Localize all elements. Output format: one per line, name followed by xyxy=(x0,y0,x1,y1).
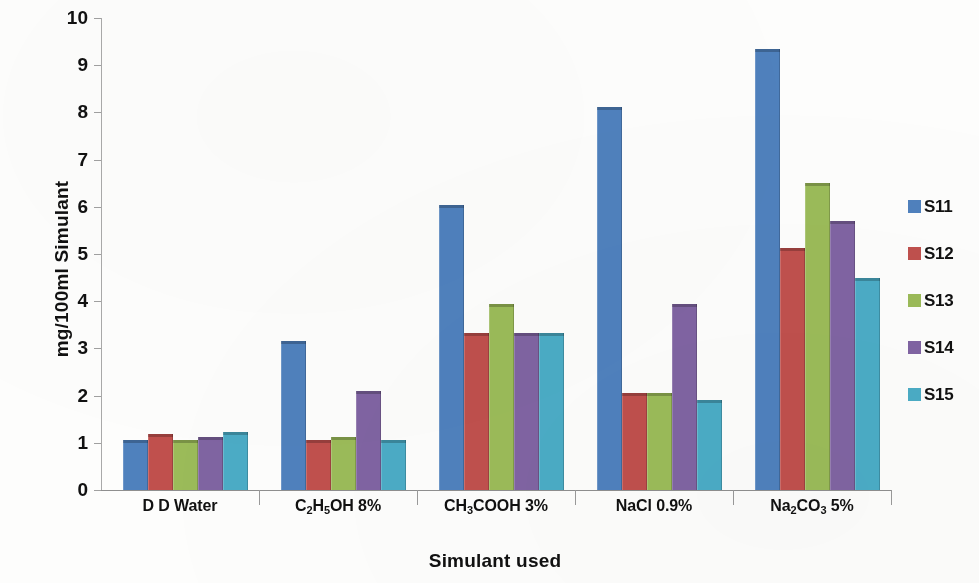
bar-top-edge xyxy=(755,49,780,52)
legend-label: S13 xyxy=(924,291,953,311)
bar-s12-2[interactable] xyxy=(306,440,331,491)
legend-swatch-icon xyxy=(908,247,921,260)
y-axis-tick-label: 6 xyxy=(77,196,88,218)
bar-top-edge xyxy=(123,440,148,443)
bar-s15-4[interactable] xyxy=(697,400,722,490)
bar-top-edge xyxy=(805,183,830,186)
x-axis-tick-label: NaCl 0.9% xyxy=(575,497,733,515)
legend-label: S12 xyxy=(924,244,953,264)
bar-s13-5[interactable] xyxy=(805,183,830,490)
y-axis-tick-label: 8 xyxy=(77,101,88,123)
bar-top-edge xyxy=(647,393,672,396)
y-axis-tick xyxy=(94,160,101,161)
bar-top-edge xyxy=(173,440,198,443)
bar-top-edge xyxy=(198,437,223,440)
bar-top-edge xyxy=(780,248,805,251)
legend-item-s15[interactable]: S15 xyxy=(908,384,978,405)
legend-item-s11[interactable]: S11 xyxy=(908,196,978,217)
bar-s11-4[interactable] xyxy=(597,107,622,490)
bar-s14-5[interactable] xyxy=(830,221,855,490)
legend-swatch-icon xyxy=(908,200,921,213)
bar-top-edge xyxy=(697,400,722,403)
bar-top-edge xyxy=(439,205,464,208)
category-separator-tick xyxy=(891,490,892,505)
y-axis-tick xyxy=(94,301,101,302)
bar-top-edge xyxy=(306,440,331,443)
bar-s13-2[interactable] xyxy=(331,437,356,490)
y-axis-tick xyxy=(94,112,101,113)
bar-top-edge xyxy=(514,333,539,336)
plot-area: 109876543210 xyxy=(101,18,891,490)
y-axis-tick-label: 2 xyxy=(77,385,88,407)
bar-top-edge xyxy=(539,333,564,336)
y-axis-tick-label: 9 xyxy=(77,54,88,76)
bar-top-edge xyxy=(281,341,306,344)
legend-item-s13[interactable]: S13 xyxy=(908,290,978,311)
bar-s11-1[interactable] xyxy=(123,440,148,491)
bar-s12-4[interactable] xyxy=(622,393,647,490)
bar-top-edge xyxy=(464,333,489,336)
x-axis-tick-label: Na2CO3 5% xyxy=(733,497,891,515)
bar-s12-5[interactable] xyxy=(780,248,805,490)
bar-s14-4[interactable] xyxy=(672,304,697,490)
bar-s13-1[interactable] xyxy=(173,440,198,491)
y-axis-tick-label: 3 xyxy=(77,337,88,359)
bar-top-edge xyxy=(223,432,248,435)
y-axis-tick-label: 1 xyxy=(77,432,88,454)
y-axis-tick-label: 7 xyxy=(77,149,88,171)
bar-top-edge xyxy=(672,304,697,307)
x-axis-title: Simulant used xyxy=(95,550,895,572)
legend-swatch-icon xyxy=(908,388,921,401)
y-axis-tick xyxy=(94,65,101,66)
bar-s15-3[interactable] xyxy=(539,333,564,490)
legend-swatch-icon xyxy=(908,341,921,354)
bar-s12-1[interactable] xyxy=(148,434,173,490)
y-axis-tick xyxy=(94,254,101,255)
legend-item-s12[interactable]: S12 xyxy=(908,243,978,264)
bar-top-edge xyxy=(356,391,381,394)
bar-top-edge xyxy=(855,278,880,281)
bar-group xyxy=(417,18,575,490)
y-axis-tick xyxy=(94,443,101,444)
y-axis-tick-label: 0 xyxy=(77,479,88,501)
bar-s12-3[interactable] xyxy=(464,333,489,490)
legend-label: S15 xyxy=(924,385,953,405)
bar-top-edge xyxy=(489,304,514,307)
bar-s15-1[interactable] xyxy=(223,432,248,490)
y-axis-tick-label: 4 xyxy=(77,290,88,312)
bar-s13-4[interactable] xyxy=(647,393,672,490)
bar-group xyxy=(101,18,259,490)
y-axis-tick xyxy=(94,18,101,19)
y-axis-tick-label: 5 xyxy=(77,243,88,265)
bar-group xyxy=(733,18,891,490)
x-axis-tick-label: D D Water xyxy=(101,497,259,515)
bar-s11-5[interactable] xyxy=(755,49,780,490)
y-axis-tick xyxy=(94,207,101,208)
chart-legend: S11S12S13S14S15 xyxy=(908,196,978,431)
bar-s11-3[interactable] xyxy=(439,205,464,490)
legend-item-s14[interactable]: S14 xyxy=(908,337,978,358)
y-axis-title: mg/100ml Simulant xyxy=(51,119,73,419)
bar-group xyxy=(575,18,733,490)
bar-s14-1[interactable] xyxy=(198,437,223,490)
legend-swatch-icon xyxy=(908,294,921,307)
x-axis-tick-label: C2H5OH 8% xyxy=(259,497,417,515)
legend-label: S11 xyxy=(924,197,952,217)
y-axis-tick-label: 10 xyxy=(67,7,88,29)
bar-s15-5[interactable] xyxy=(855,278,880,490)
bar-s14-3[interactable] xyxy=(514,333,539,490)
bar-s14-2[interactable] xyxy=(356,391,381,490)
legend-label: S14 xyxy=(924,338,953,358)
bar-top-edge xyxy=(597,107,622,110)
bar-s13-3[interactable] xyxy=(489,304,514,490)
bar-group xyxy=(259,18,417,490)
bar-s11-2[interactable] xyxy=(281,341,306,490)
y-axis-tick xyxy=(94,396,101,397)
bar-s15-2[interactable] xyxy=(381,440,406,490)
x-axis-tick-label: CH3COOH 3% xyxy=(417,497,575,515)
bar-top-edge xyxy=(622,393,647,396)
bar-top-edge xyxy=(381,440,406,443)
x-axis-line xyxy=(101,490,891,491)
y-axis-tick xyxy=(94,490,101,491)
bar-top-edge xyxy=(830,221,855,224)
